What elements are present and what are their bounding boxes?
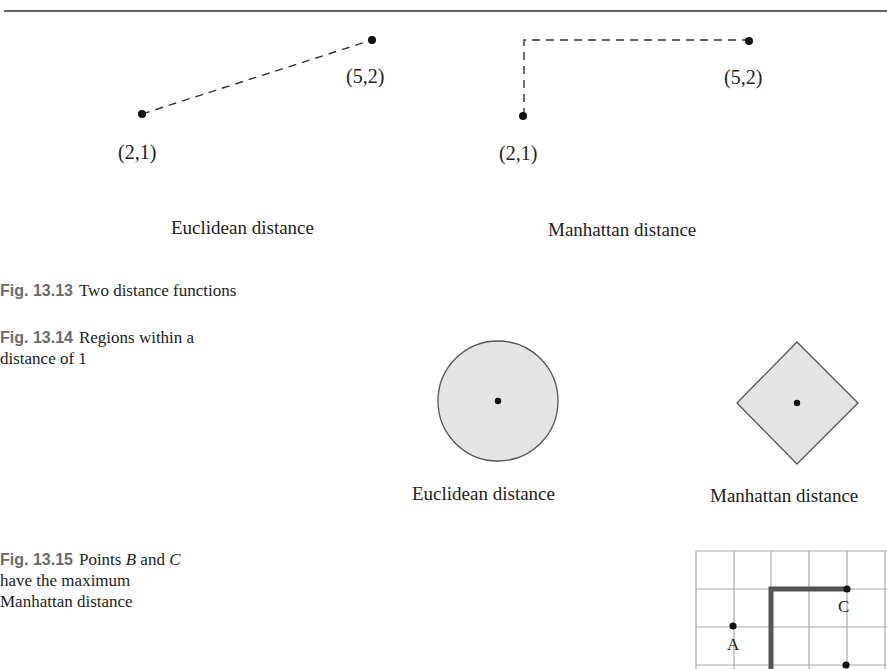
caption-text: Two distance functions xyxy=(79,281,236,300)
manhattan-grid xyxy=(696,551,887,669)
circle-region-title: Euclidean distance xyxy=(412,484,555,503)
point-2-1-dot xyxy=(519,112,527,120)
euclidean-point-2-1-label: (2,1) xyxy=(118,142,156,162)
caption-label: Fig. 13.14 xyxy=(0,329,73,346)
caption-point-b: B xyxy=(126,550,136,569)
caption-label: Fig. 13.13 xyxy=(0,282,73,299)
point-5-2-dot xyxy=(745,37,753,45)
manhattan-point-5-2-label: (5,2) xyxy=(724,67,762,87)
caption-text: and xyxy=(140,550,165,569)
fig-13-15-caption: Fig. 13.15Points B and C have the maximu… xyxy=(0,549,180,612)
caption-line-1: Regions within a xyxy=(79,328,194,347)
manhattan-point-2-1-label: (2,1) xyxy=(499,143,537,163)
euclidean-point-5-2-label: (5,2) xyxy=(346,66,384,86)
euclidean-figure-title: Euclidean distance xyxy=(171,218,314,237)
fig-13-13-caption: Fig. 13.13Two distance functions xyxy=(0,280,236,301)
manhattan-region-diamond xyxy=(737,342,858,464)
caption-label: Fig. 13.15 xyxy=(0,551,73,568)
center-dot xyxy=(794,400,800,406)
caption-line-2: distance of 1 xyxy=(0,348,194,369)
caption-line-2: have the maximum xyxy=(0,570,180,591)
fig-13-14-caption: Fig. 13.14Regions within a distance of 1 xyxy=(0,327,194,369)
manhattan-path-figure xyxy=(519,37,753,120)
diamond-region-title: Manhattan distance xyxy=(710,486,858,505)
caption-line-3: Manhattan distance xyxy=(0,591,180,612)
point-c-label: C xyxy=(838,598,849,615)
point-b-dot xyxy=(842,661,849,668)
point-c-dot xyxy=(843,585,850,592)
point-2-1-dot xyxy=(138,110,146,118)
point-a-dot xyxy=(729,622,736,629)
euclidean-region-circle xyxy=(438,341,558,461)
manhattan-figure-title: Manhattan distance xyxy=(548,220,696,239)
center-dot xyxy=(495,398,501,404)
euclidean-line-figure xyxy=(138,36,376,118)
caption-text: Points xyxy=(79,550,122,569)
point-a-label: A xyxy=(727,636,739,653)
caption-point-c: C xyxy=(169,550,180,569)
point-5-2-dot xyxy=(368,36,376,44)
